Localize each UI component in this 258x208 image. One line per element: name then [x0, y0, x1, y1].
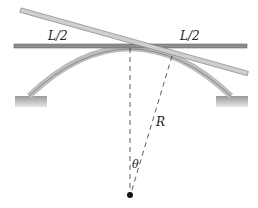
horizontal-bar — [14, 44, 247, 48]
radius-dashed-line — [131, 56, 172, 193]
curved-beam-diagram: L/2 L/2 R θ — [0, 0, 258, 208]
label-angle: θ — [132, 158, 139, 171]
center-point — [127, 192, 133, 198]
label-right-half: L/2 — [179, 29, 200, 43]
label-left-half: L/2 — [47, 29, 68, 43]
label-radius: R — [155, 115, 165, 129]
right-support — [216, 96, 248, 107]
